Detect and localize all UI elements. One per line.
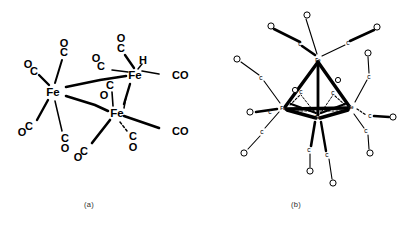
carbon-atom: C bbox=[367, 75, 371, 80]
oxygen-atom bbox=[365, 50, 371, 56]
carbon-atom: C bbox=[299, 90, 303, 95]
carbon-atom: C bbox=[325, 153, 329, 158]
panel-a-carbonyl-labels: C O C O C O C O C O C O C O C O C O bbox=[18, 32, 138, 163]
oxygen-atom bbox=[335, 77, 340, 82]
oxygen-atom bbox=[292, 87, 297, 92]
panel-a-fe-lower: Fe bbox=[110, 107, 123, 119]
structures-canvas: Fe Fe Fe H CO CO C O C O C O C O C O C bbox=[0, 0, 407, 229]
oxygen-atom bbox=[374, 24, 380, 30]
panel-b-right-fe-bonds bbox=[354, 57, 389, 149]
figure-root: Fe Fe Fe H CO CO C O C O C O C O C O C bbox=[0, 0, 407, 229]
panel-b-fe-top: Fe bbox=[315, 58, 321, 63]
panel-b-fe-front: Fe bbox=[315, 115, 321, 120]
carbon-atom: C bbox=[259, 76, 263, 81]
carbon-atom: C bbox=[364, 129, 368, 134]
panel-a-metal-bonds bbox=[66, 76, 130, 111]
panel-b-fe-left: Fe bbox=[280, 106, 286, 111]
panel-b-oxygen-atoms bbox=[234, 12, 396, 186]
oxygen-atom bbox=[304, 12, 310, 18]
caption-b: (b) bbox=[291, 200, 301, 209]
carbon-atom: C bbox=[331, 91, 335, 96]
co-o: O bbox=[60, 37, 69, 49]
co-o: O bbox=[92, 52, 101, 64]
oxygen-atom bbox=[330, 180, 336, 186]
oxygen-atom bbox=[247, 109, 253, 115]
co-o: O bbox=[117, 32, 126, 44]
panel-a-group: Fe Fe Fe H CO CO C O C O C O C O C O C bbox=[18, 32, 189, 163]
caption-a: (a) bbox=[84, 200, 94, 209]
panel-a-fe-upper: Fe bbox=[128, 69, 141, 81]
oxygen-atom bbox=[234, 56, 240, 62]
oxygen-atom bbox=[268, 23, 274, 29]
carbon-atom: C bbox=[260, 130, 264, 135]
panel-a-terminal-co-1: CO bbox=[172, 69, 189, 81]
co-o: O bbox=[18, 126, 27, 138]
oxygen-atom bbox=[307, 168, 313, 174]
oxygen-atom bbox=[390, 114, 396, 120]
panel-b-fe-right: Fe bbox=[348, 105, 354, 110]
co-o: O bbox=[24, 58, 33, 70]
panel-b-group: C C C C C C C C C C C C Fe Fe Fe Fe bbox=[234, 12, 396, 186]
co-o: O bbox=[129, 141, 138, 153]
panel-a-hydride-label: H bbox=[139, 54, 147, 66]
carbon-atom: C bbox=[368, 114, 372, 119]
panel-a-fe-left: Fe bbox=[46, 86, 59, 98]
carbon-atom: C bbox=[307, 148, 311, 153]
panel-a-terminal-co-2: CO bbox=[172, 125, 189, 137]
oxygen-atom bbox=[367, 150, 373, 156]
co-o: O bbox=[100, 89, 109, 101]
co-o: O bbox=[74, 151, 83, 163]
panel-b-top-fe-bonds bbox=[274, 19, 374, 56]
oxygen-atom bbox=[241, 150, 247, 156]
co-o: O bbox=[61, 142, 70, 154]
